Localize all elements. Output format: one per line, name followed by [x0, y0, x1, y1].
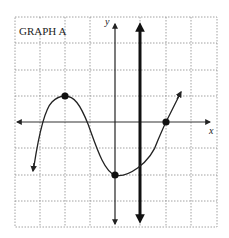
point-local-max — [61, 92, 68, 99]
curve-left-arrow-icon — [33, 163, 34, 171]
point-local-min — [111, 171, 118, 178]
graph-a: GRAPH A x y — [0, 0, 229, 238]
function-curve — [34, 94, 180, 175]
y-axis-label: y — [104, 16, 110, 27]
x-axis-label: x — [208, 125, 214, 136]
point-x-intercept — [162, 118, 169, 125]
curve-right-arrow-icon — [177, 92, 181, 99]
graph-title: GRAPH A — [19, 25, 66, 37]
